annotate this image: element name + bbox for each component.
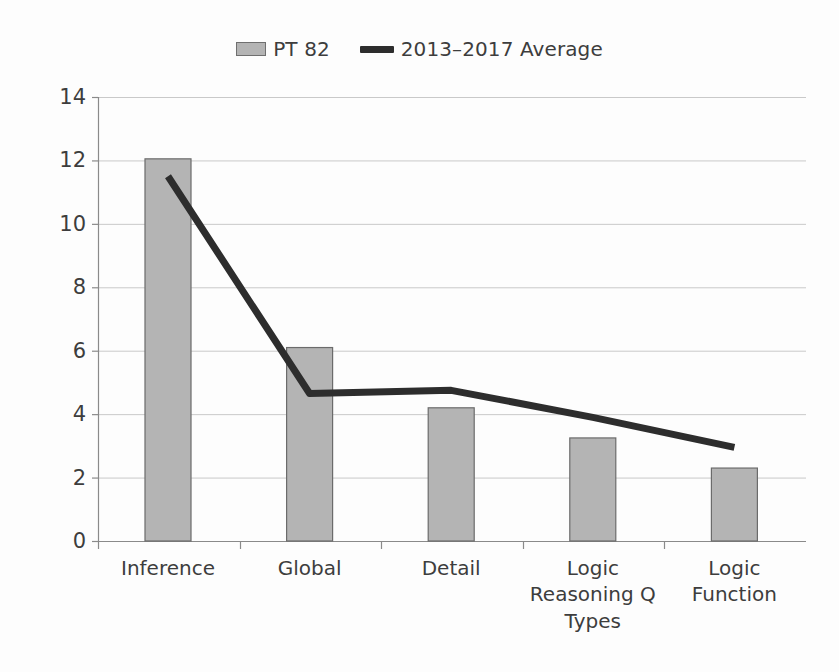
y-tick-label: 10 [2,212,86,236]
y-tick-label: 12 [2,148,86,172]
x-tick-marks [99,541,665,549]
bar-inference [145,159,191,541]
y-tick-label: 6 [2,339,86,363]
average-trend-line [168,176,734,447]
y-tick-label: 2 [2,466,86,490]
x-tick-label-line: Logic [649,555,819,581]
chart-container: PT 82 2013–2017 Average 02468101214 Infe… [0,0,839,672]
plot-area: 02468101214 InferenceGlobalDetailLogicRe… [0,0,839,672]
x-tick-label-line: Function [649,581,819,607]
y-tick-label: 0 [2,529,86,553]
bar-series [145,159,757,541]
bar-global [287,348,333,541]
x-tick-label: LogicFunction [649,555,819,608]
y-tick-label: 4 [2,402,86,426]
y-tick-label: 14 [2,85,86,109]
line-series [168,176,734,447]
bar-logic-reasoning-q-types [570,438,616,541]
y-tick-label: 8 [2,275,86,299]
bar-logic-function [711,468,757,541]
x-tick-label-line: Types [508,608,678,634]
bar-detail [428,408,474,541]
